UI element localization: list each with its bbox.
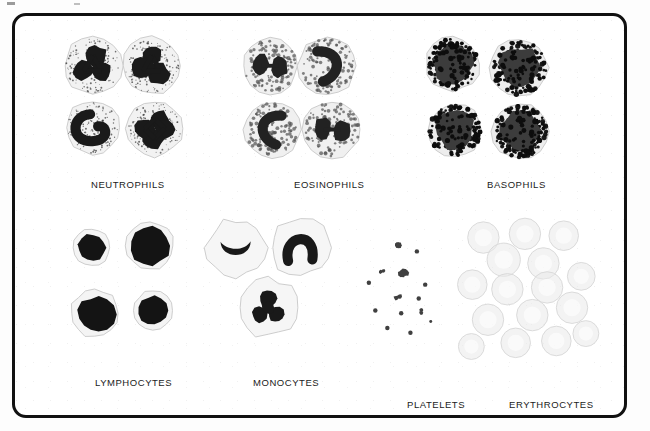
cell-eosinophils <box>244 37 298 95</box>
cell-lymphocytes <box>133 291 172 330</box>
group-label-neutrophils: NEUTROPHILS <box>91 179 165 190</box>
cell-platelets <box>385 326 389 330</box>
group-label-platelets: PLATELETS <box>407 399 465 410</box>
cell-group-lymphocytes <box>71 222 173 337</box>
cell-platelets <box>373 308 377 312</box>
group-label-eosinophils: EOSINOPHILS <box>294 179 364 190</box>
cell-platelets <box>394 294 402 300</box>
cell-neutrophils <box>65 36 123 94</box>
cell-erythrocytes <box>458 334 484 360</box>
cell-platelets <box>408 330 412 334</box>
cell-group-platelets <box>367 242 433 335</box>
cell-eosinophils <box>297 37 356 94</box>
blood-cell-plate: NEUTROPHILSEOSINOPHILSBASOPHILSLYMPHOCYT… <box>0 0 650 431</box>
group-label-lymphocytes: LYMPHOCYTES <box>95 377 172 388</box>
cell-lymphocytes <box>71 289 118 336</box>
cell-monocytes <box>240 276 298 337</box>
cell-monocytes <box>273 219 332 276</box>
cell-erythrocytes <box>458 270 488 300</box>
cell-platelets <box>423 282 427 286</box>
cell-platelets <box>379 269 385 274</box>
cell-erythrocytes <box>509 218 540 249</box>
cell-platelets <box>367 281 371 285</box>
cell-monocytes <box>204 219 268 279</box>
cell-lymphocytes <box>73 229 109 265</box>
cell-erythrocytes <box>573 321 599 347</box>
plate-frame: NEUTROPHILSEOSINOPHILSBASOPHILSLYMPHOCYT… <box>12 13 627 418</box>
cell-basophils <box>489 40 549 97</box>
cell-platelets <box>398 269 409 278</box>
cell-platelets <box>415 249 419 253</box>
cell-platelets <box>395 242 402 248</box>
cell-group-eosinophils <box>243 37 360 159</box>
cell-erythrocytes <box>567 262 595 290</box>
cell-platelets <box>399 311 403 315</box>
cell-platelets <box>419 308 423 315</box>
cell-erythrocytes <box>517 299 548 330</box>
cell-eosinophils <box>243 102 301 158</box>
cell-erythrocytes <box>531 272 562 303</box>
cell-erythrocytes <box>472 304 503 335</box>
cell-group-erythrocytes <box>458 218 599 359</box>
cell-neutrophils <box>123 36 180 94</box>
group-label-monocytes: MONOCYTES <box>253 377 319 388</box>
cell-erythrocytes <box>492 274 523 305</box>
cell-basophils <box>427 104 482 157</box>
cell-group-basophils <box>427 36 549 159</box>
cell-basophils <box>427 36 480 92</box>
cell-erythrocytes <box>487 243 520 276</box>
cell-platelets <box>429 320 432 323</box>
cell-group-neutrophils <box>65 36 183 158</box>
cell-illustrations <box>3 3 611 401</box>
cell-platelets <box>417 296 421 300</box>
group-label-basophils: BASOPHILS <box>487 179 546 190</box>
cell-erythrocytes <box>556 292 587 323</box>
cell-eosinophils <box>302 102 360 159</box>
group-label-erythrocytes: ERYTHROCYTES <box>509 399 594 410</box>
cell-group-monocytes <box>204 219 331 337</box>
cell-erythrocytes <box>549 221 579 251</box>
cell-erythrocytes <box>501 328 531 358</box>
cell-lymphocytes <box>125 222 173 269</box>
cell-basophils <box>491 104 549 159</box>
cell-erythrocytes <box>542 326 572 356</box>
cell-neutrophils <box>125 102 182 158</box>
cell-neutrophils <box>67 102 120 155</box>
